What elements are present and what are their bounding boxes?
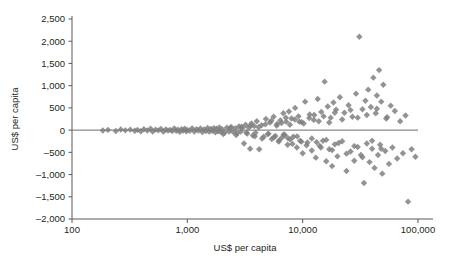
y-tick-label: –2,000 bbox=[36, 213, 65, 224]
data-point bbox=[379, 170, 385, 176]
plot-area: –2,000–1,500–1,000–50005001,0001,5002,00… bbox=[0, 0, 449, 267]
data-points-layer bbox=[100, 34, 419, 205]
data-point bbox=[316, 118, 322, 124]
y-tick-label: 2,500 bbox=[41, 13, 65, 24]
x-axis-title: US$ per capita bbox=[214, 242, 278, 253]
data-point bbox=[402, 112, 408, 118]
y-tick-label: –1,500 bbox=[36, 191, 65, 202]
x-tick-label: 1,000 bbox=[175, 224, 199, 235]
data-point bbox=[386, 161, 392, 167]
data-point bbox=[292, 105, 298, 111]
data-point bbox=[370, 74, 376, 80]
data-point bbox=[127, 126, 133, 132]
data-point bbox=[369, 146, 375, 152]
data-point bbox=[400, 150, 406, 156]
data-point bbox=[405, 198, 411, 204]
data-point bbox=[294, 144, 300, 150]
data-point bbox=[374, 92, 380, 98]
data-point bbox=[286, 108, 292, 114]
data-point bbox=[309, 135, 315, 141]
data-point bbox=[375, 152, 381, 158]
data-point bbox=[412, 154, 418, 160]
data-point bbox=[105, 127, 111, 133]
data-point bbox=[388, 102, 394, 108]
data-point bbox=[365, 86, 371, 92]
data-point bbox=[341, 110, 347, 116]
data-point bbox=[389, 144, 395, 150]
data-point bbox=[364, 140, 370, 146]
data-point bbox=[374, 106, 380, 112]
data-point bbox=[376, 67, 382, 73]
scatter-chart: –2,000–1,500–1,000–50005001,0001,5002,00… bbox=[0, 0, 449, 267]
y-tick-label: 0 bbox=[60, 125, 65, 136]
data-point bbox=[256, 146, 262, 152]
y-tick-label: –500 bbox=[44, 147, 65, 158]
data-point bbox=[265, 130, 271, 136]
x-tick-label: 100,000 bbox=[401, 224, 435, 235]
data-point bbox=[353, 90, 359, 96]
data-point bbox=[361, 180, 367, 186]
data-point bbox=[380, 82, 386, 88]
data-point bbox=[313, 154, 319, 160]
data-point bbox=[351, 158, 357, 164]
data-point bbox=[392, 108, 398, 114]
data-point bbox=[323, 158, 329, 164]
data-point bbox=[362, 98, 368, 104]
data-point bbox=[356, 34, 362, 40]
data-point bbox=[330, 99, 336, 105]
x-tick-label: 100 bbox=[64, 224, 80, 235]
data-point bbox=[247, 146, 253, 152]
data-point bbox=[371, 165, 377, 171]
data-point bbox=[321, 78, 327, 84]
data-point bbox=[299, 150, 305, 156]
data-point bbox=[284, 142, 290, 148]
y-tick-label: 500 bbox=[49, 102, 65, 113]
data-point bbox=[366, 159, 372, 165]
data-point bbox=[368, 104, 374, 110]
data-point bbox=[394, 155, 400, 161]
data-point bbox=[397, 118, 403, 124]
data-point bbox=[334, 153, 340, 159]
data-point bbox=[113, 128, 119, 134]
y-tick-label: 2,000 bbox=[41, 36, 65, 47]
data-point bbox=[369, 138, 375, 144]
data-point bbox=[373, 110, 379, 116]
data-point bbox=[315, 96, 321, 102]
y-tick-label: –1,000 bbox=[36, 169, 65, 180]
data-point bbox=[408, 146, 414, 152]
data-point bbox=[302, 98, 308, 104]
data-point bbox=[100, 127, 106, 133]
data-point bbox=[311, 112, 317, 118]
data-point bbox=[309, 147, 315, 153]
data-point bbox=[337, 94, 343, 100]
data-point bbox=[378, 98, 384, 104]
data-point bbox=[326, 119, 332, 125]
data-point bbox=[354, 114, 360, 120]
y-axis-title: US$ per capita bbox=[9, 87, 20, 151]
data-point bbox=[359, 106, 365, 112]
data-point bbox=[328, 114, 334, 120]
data-point bbox=[343, 168, 349, 174]
x-tick-label: 10,000 bbox=[288, 224, 317, 235]
y-tick-label: 1,500 bbox=[41, 58, 65, 69]
data-point bbox=[122, 127, 128, 133]
data-point bbox=[364, 112, 370, 118]
axes-layer bbox=[69, 16, 434, 223]
data-point bbox=[349, 114, 355, 120]
y-tick-label: 1,000 bbox=[41, 80, 65, 91]
data-point bbox=[339, 116, 345, 122]
data-point bbox=[329, 163, 335, 169]
data-point bbox=[241, 140, 247, 146]
data-point bbox=[325, 103, 331, 109]
